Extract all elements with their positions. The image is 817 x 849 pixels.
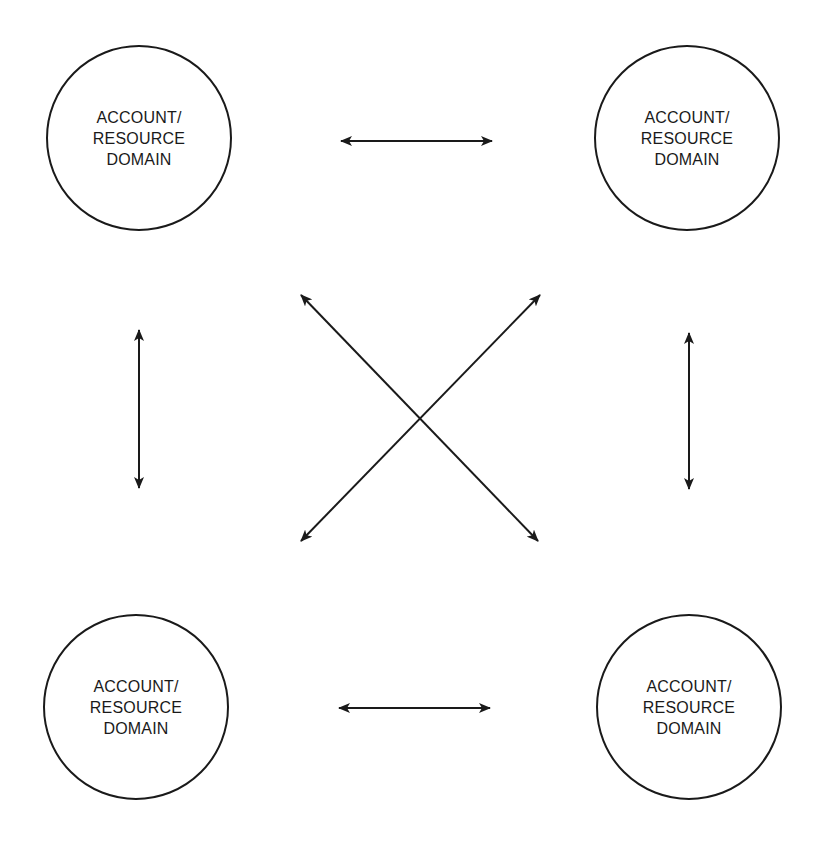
label-line: RESOURCE [641,128,733,149]
label-line: DOMAIN [641,149,733,170]
domain-label: ACCOUNT/ RESOURCE DOMAIN [90,676,182,739]
label-line: DOMAIN [643,718,735,739]
domain-node-bottom-left: ACCOUNT/ RESOURCE DOMAIN [43,614,229,800]
domain-label: ACCOUNT/ RESOURCE DOMAIN [643,676,735,739]
label-line: DOMAIN [90,718,182,739]
label-line: DOMAIN [93,149,185,170]
label-line: ACCOUNT/ [90,676,182,697]
label-line: ACCOUNT/ [643,676,735,697]
label-line: RESOURCE [643,697,735,718]
domain-label: ACCOUNT/ RESOURCE DOMAIN [93,107,185,170]
label-line: ACCOUNT/ [93,107,185,128]
domain-node-bottom-right: ACCOUNT/ RESOURCE DOMAIN [596,614,782,800]
label-line: RESOURCE [90,697,182,718]
domain-label: ACCOUNT/ RESOURCE DOMAIN [641,107,733,170]
label-line: RESOURCE [93,128,185,149]
domain-node-top-left: ACCOUNT/ RESOURCE DOMAIN [46,45,232,231]
domain-node-top-right: ACCOUNT/ RESOURCE DOMAIN [594,45,780,231]
label-line: ACCOUNT/ [641,107,733,128]
